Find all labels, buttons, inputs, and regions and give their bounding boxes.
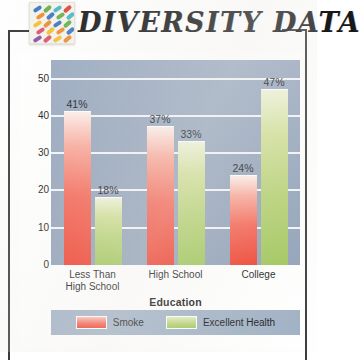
bar-value-label: 41% [56,98,98,110]
x-axis-tick-label: College [216,269,302,281]
x-axis-tick-label: Less ThanHigh School [50,269,136,292]
logo-mosaic-dash [53,35,63,43]
y-axis-tick-label: 10 [23,222,49,233]
y-axis-tick-label: 20 [23,184,49,195]
logo-mosaic-dash [43,34,52,43]
plot-area: 41%18%37%33%24%47% [51,60,300,265]
legend-item-excellent-health[interactable]: Excellent Health [166,316,275,329]
chart-legend: Smoke Excellent Health [51,310,300,335]
page-frame-left-edge [8,30,10,360]
page-header: DIVERSITY DATA [0,0,317,46]
logo-mosaic-dash [63,34,72,43]
legend-label-smoke: Smoke [113,317,144,328]
bar-excellent-health[interactable] [95,197,122,265]
x-axis-tick-line: Less Than [69,269,116,280]
bar-value-label: 18% [87,184,129,196]
bar-value-label: 47% [253,76,295,88]
bar-excellent-health[interactable] [261,89,288,265]
y-axis-tick-label: 40 [23,110,49,121]
page-frame-right-edge [305,30,307,360]
legend-item-smoke[interactable]: Smoke [76,316,144,329]
bar-value-label: 33% [170,128,212,140]
logo-mosaic-dash [33,35,43,43]
y-axis-tick-label: 0 [23,259,49,270]
x-axis-title: Education [51,296,300,308]
y-axis-tick-label: 50 [23,73,49,84]
bar-chart: Reported Excellent Health/Smoking 41%18%… [18,52,303,347]
x-axis-tick-line: High School [66,281,120,292]
legend-swatch-excellent-health-icon [166,316,197,329]
legend-label-excellent-health: Excellent Health [203,317,275,328]
logo-mosaic-dash [46,27,55,36]
bar-value-label: 24% [222,162,264,174]
x-axis-tick-label: High School [133,269,219,281]
logo-mosaic-dash [53,20,63,28]
page-title: DIVERSITY DATA [78,4,283,42]
x-axis-tick-line: High School [149,269,203,280]
logo-mosaic-dash [56,27,66,35]
bar-smoke[interactable] [147,126,174,265]
diversity-mosaic-logo-icon [29,2,75,44]
logo-mosaic-dash [36,12,46,20]
legend-swatch-smoke-icon [76,316,107,329]
bar-smoke[interactable] [230,175,257,265]
x-axis-tick-line: College [242,269,276,280]
logo-mosaic-dash [66,27,75,36]
logo-mosaic-dash [33,20,43,28]
y-axis-tick-label: 30 [23,147,49,158]
bar-excellent-health[interactable] [178,141,205,265]
logo-mosaic-dash [46,12,55,21]
logo-mosaic-dash [36,27,46,35]
logo-mosaic-dash [56,12,66,20]
bar-value-label: 37% [139,113,181,125]
